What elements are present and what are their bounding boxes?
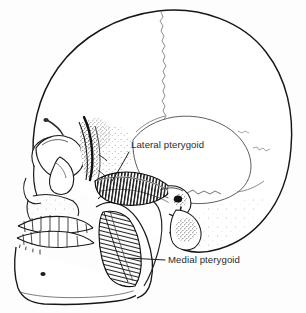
mental-foramen [40, 272, 45, 276]
anatomical-figure: Lateral pterygoid Medial pterygoid [0, 0, 306, 313]
skull-illustration: Lateral pterygoid Medial pterygoid [0, 0, 306, 313]
label-lateral-pterygoid: Lateral pterygoid [131, 139, 204, 150]
label-medial-pterygoid: Medial pterygoid [168, 254, 240, 265]
external-acoustic-meatus [174, 195, 182, 202]
